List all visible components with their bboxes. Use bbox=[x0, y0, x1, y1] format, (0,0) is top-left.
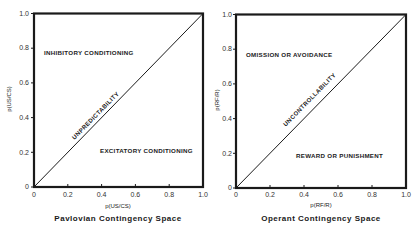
y-tick-label: 0 bbox=[25, 183, 29, 190]
uncontrollability-label: UNCONTROLLABILITY bbox=[282, 72, 337, 128]
y-tick-label: 0.6 bbox=[222, 80, 232, 87]
y-axis-label: p(US/CS) bbox=[6, 86, 12, 112]
pavlovian-caption: Pavlovian Contingency Space bbox=[54, 214, 181, 223]
x-tick-label: 0.8 bbox=[367, 191, 377, 198]
y-tick-label: 0.4 bbox=[222, 115, 232, 122]
x-tick-label: 0.4 bbox=[97, 191, 107, 198]
x-tick-label: 0.4 bbox=[299, 191, 309, 198]
y-tick-label: 0.6 bbox=[19, 79, 29, 86]
x-tick-label: 0 bbox=[234, 191, 238, 198]
operant-chart: 0 0.2 0.4 0.6 0.8 1.0 0 0.2 0.4 0.6 0.8 … bbox=[210, 0, 419, 230]
x-tick-label: 0.2 bbox=[265, 191, 275, 198]
unpredictability-label: UNPREDICTABILITY bbox=[71, 90, 120, 140]
x-tick-label: 0.8 bbox=[164, 191, 174, 198]
diagonal-line bbox=[34, 14, 203, 188]
excitatory-conditioning-label: EXCITATORY CONDITIONING bbox=[100, 147, 193, 154]
y-tick-label: 0.4 bbox=[19, 114, 29, 121]
x-axis-label: p(RF/R) bbox=[310, 202, 331, 208]
pavlovian-contingency-panel: 0 0.2 0.4 0.6 0.8 1.0 0 0.2 0.4 0.6 0.8 … bbox=[0, 0, 209, 230]
x-tick-label: 0.6 bbox=[131, 191, 141, 198]
operant-contingency-panel: 0 0.2 0.4 0.6 0.8 1.0 0 0.2 0.4 0.6 0.8 … bbox=[210, 0, 419, 230]
reward-punishment-label: REWARD OR PUNISHMENT bbox=[296, 152, 383, 159]
y-tick-label: 0.2 bbox=[19, 149, 29, 156]
omission-avoidance-label: OMISSION OR AVOIDANCE bbox=[246, 51, 332, 58]
x-tick-label: 0 bbox=[32, 191, 36, 198]
diagonal-line bbox=[236, 15, 406, 189]
y-tick-label: 1.0 bbox=[222, 11, 232, 18]
x-tick-label: 1.0 bbox=[401, 191, 411, 198]
x-tick-label: 0.6 bbox=[333, 191, 343, 198]
y-tick-label: 0.2 bbox=[222, 150, 232, 157]
y-tick-label: 0 bbox=[228, 184, 232, 191]
operant-caption: Operant Contingency Space bbox=[261, 214, 381, 223]
x-tick-label: 1.0 bbox=[198, 191, 208, 198]
inhibitory-conditioning-label: INHIBITORY CONDITIONING bbox=[44, 49, 134, 56]
y-tick-label: 1.0 bbox=[19, 10, 29, 17]
pavlovian-chart: 0 0.2 0.4 0.6 0.8 1.0 0 0.2 0.4 0.6 0.8 … bbox=[0, 0, 209, 230]
y-axis-label: p(RF/R) bbox=[214, 89, 220, 110]
x-axis-label: p(US/CS) bbox=[105, 203, 131, 209]
y-tick-label: 0.8 bbox=[19, 44, 29, 51]
x-tick-label: 0.2 bbox=[63, 191, 73, 198]
y-tick-label: 0.8 bbox=[222, 45, 232, 52]
